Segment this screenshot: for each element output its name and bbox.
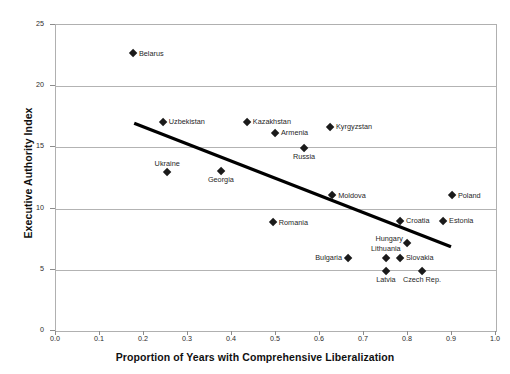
x-axis-title: Proportion of Years with Comprehensive L… [0, 351, 510, 363]
trendline [0, 0, 510, 374]
scatter-chart: 25 20 15 10 5 0 0.0 0.1 0.2 0.3 0.4 0.5 … [0, 0, 510, 374]
y-axis-title: Executive Authority Index [22, 53, 34, 293]
